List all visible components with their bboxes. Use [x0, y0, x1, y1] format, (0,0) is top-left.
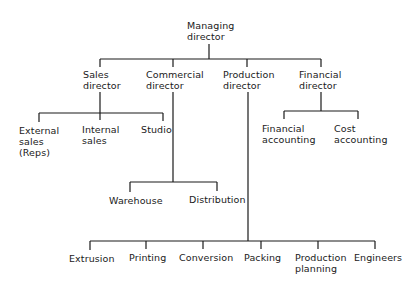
node-cost-accounting: Cost accounting: [334, 123, 388, 145]
node-financial-director: Financial director: [299, 69, 342, 91]
node-packing: Packing: [244, 252, 281, 263]
node-financial-accounting: Financial accounting: [262, 123, 316, 145]
node-commercial-director: Commercial director: [146, 69, 204, 91]
node-managing-director: Managing director: [187, 20, 234, 42]
node-sales-director: Sales director: [83, 69, 121, 91]
node-engineers: Engineers: [354, 252, 402, 263]
node-studio: Studio: [141, 124, 172, 135]
node-printing: Printing: [129, 252, 166, 263]
node-production-planning: Production planning: [295, 252, 347, 274]
node-external-sales: External sales (Reps): [19, 125, 59, 158]
node-distribution: Distribution: [189, 194, 246, 205]
node-extrusion: Extrusion: [69, 253, 115, 264]
node-internal-sales: Internal sales: [82, 124, 119, 146]
node-production-director: Production director: [223, 69, 275, 91]
node-warehouse: Warehouse: [109, 195, 163, 206]
node-conversion: Conversion: [179, 252, 233, 263]
